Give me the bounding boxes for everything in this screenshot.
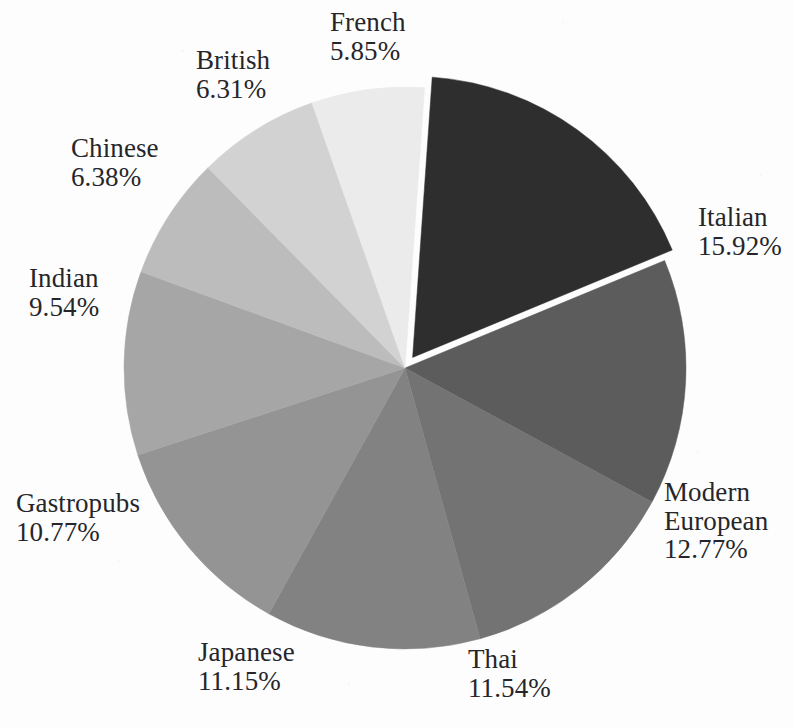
pie-label-name: Gastropubs — [16, 489, 140, 518]
pie-label-name: Chinese — [71, 134, 159, 163]
pie-label-japanese: Japanese11.15% — [198, 638, 295, 695]
pie-label-value: 6.38% — [71, 163, 159, 192]
pie-chart: Italian15.92%ModernEuropean12.77%Thai11.… — [0, 0, 793, 728]
pie-label-name: European — [664, 507, 768, 536]
pie-slice-group — [124, 77, 686, 649]
pie-label-value: 11.54% — [468, 674, 551, 703]
pie-label-value: 10.77% — [16, 518, 140, 547]
pie-label-value: 11.15% — [198, 667, 295, 696]
pie-label-name: Japanese — [198, 638, 295, 667]
pie-label-british: British6.31% — [196, 46, 270, 103]
pie-label-name: Indian — [29, 264, 99, 293]
pie-label-value: 12.77% — [664, 535, 768, 564]
pie-label-value: 5.85% — [330, 37, 406, 66]
pie-svg — [0, 0, 793, 728]
pie-label-name: British — [196, 46, 270, 75]
pie-label-gastropubs: Gastropubs10.77% — [16, 489, 140, 546]
pie-label-chinese: Chinese6.38% — [71, 134, 159, 191]
pie-label-value: 15.92% — [698, 232, 782, 261]
pie-label-french: French5.85% — [330, 8, 406, 65]
pie-label-name: Thai — [468, 645, 551, 674]
pie-label-modern-european: ModernEuropean12.77% — [664, 478, 768, 564]
pie-label-indian: Indian9.54% — [29, 264, 99, 321]
pie-label-name: Modern — [664, 478, 768, 507]
pie-label-name: Italian — [698, 203, 782, 232]
pie-label-value: 6.31% — [196, 75, 270, 104]
pie-label-value: 9.54% — [29, 293, 99, 322]
pie-label-name: French — [330, 8, 406, 37]
pie-label-thai: Thai11.54% — [468, 645, 551, 702]
pie-label-italian: Italian15.92% — [698, 203, 782, 260]
